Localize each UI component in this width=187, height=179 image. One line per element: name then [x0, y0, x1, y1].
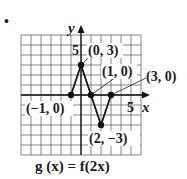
y-tick-5: 5 [72, 43, 79, 58]
function-formula: g (x) = f(2x) [35, 158, 110, 175]
label-3-0: (3, 0) [146, 69, 177, 85]
graph: • y x 5 5 (0, 3) (1, 0) (3, 0) (−1, 0) (… [0, 0, 187, 179]
label-1-0: (1, 0) [102, 64, 133, 80]
y-axis-arrow-icon [78, 25, 85, 33]
bullet: • [4, 14, 9, 29]
x-tick-5: 5 [127, 100, 134, 115]
x-axis-arrow-icon [142, 92, 150, 99]
label-2-neg3: (2, −3) [89, 131, 128, 147]
label-neg1-0: (−1, 0) [26, 101, 65, 117]
x-axis-label: x [141, 99, 150, 115]
label-0-3: (0, 3) [88, 43, 119, 59]
y-axis-label: y [66, 20, 75, 36]
